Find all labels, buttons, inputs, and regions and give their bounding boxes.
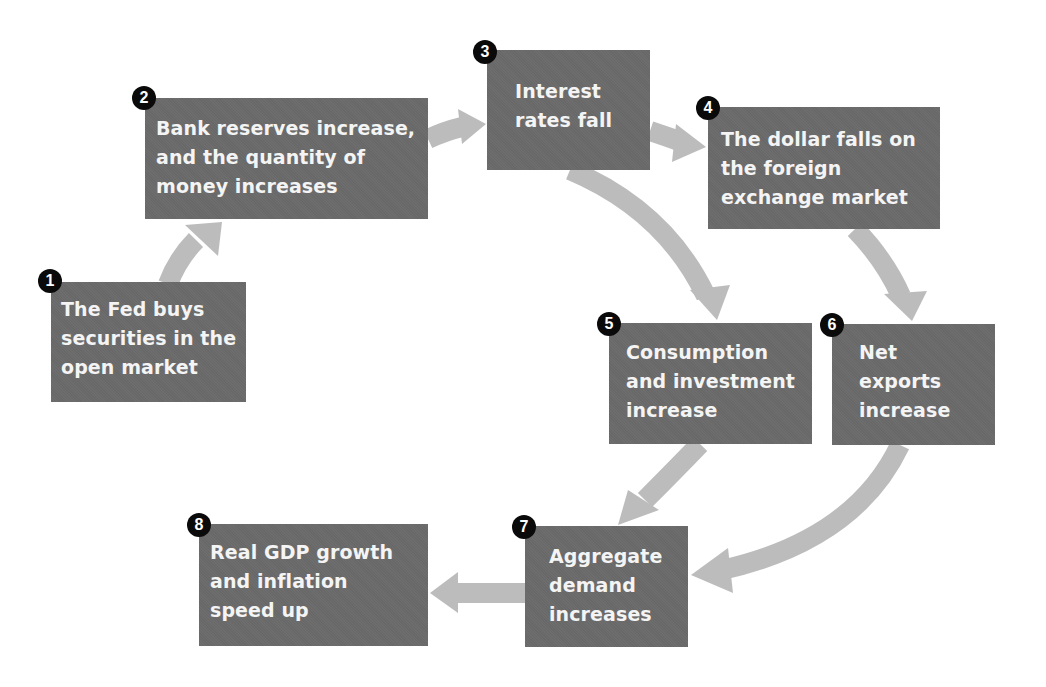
step-3-box: Interest rates fall <box>487 50 650 170</box>
step-6-box: Net exports increase <box>832 324 995 445</box>
arrow-1-to-2 <box>168 240 196 284</box>
step-4-text: The dollar falls on the foreign exchange… <box>721 125 916 212</box>
arrow-3-to-5 <box>570 170 706 296</box>
step-7-badge: 7 <box>512 515 536 539</box>
step-7-text: Aggregate demand increases <box>549 542 662 629</box>
step-8-badge: 8 <box>187 513 211 537</box>
arrowhead-4 <box>672 124 706 162</box>
step-2-box: Bank reserves increase, and the quantity… <box>145 98 428 219</box>
arrowhead-3 <box>458 109 486 144</box>
step-1-badge: 1 <box>38 269 62 293</box>
step-6-text: Net exports increase <box>859 338 950 425</box>
step-5-box: Consumption and investment increase <box>609 323 812 444</box>
step-8-text: Real GDP growth and inflation speed up <box>210 538 393 625</box>
arrowhead-8 <box>430 572 458 613</box>
arrow-2-to-3 <box>428 127 462 139</box>
step-5-badge: 5 <box>597 312 621 336</box>
arrow-6-to-7 <box>722 445 900 570</box>
monetary-policy-transmission-diagram: The Fed buys securities in the open mark… <box>0 0 1046 687</box>
arrowhead-7b <box>691 548 733 593</box>
step-4-badge: 4 <box>696 96 720 120</box>
step-8-box: Real GDP growth and inflation speed up <box>199 524 428 646</box>
step-2-text: Bank reserves increase, and the quantity… <box>156 114 415 201</box>
step-1-box: The Fed buys securities in the open mark… <box>51 282 246 402</box>
step-3-text: Interest rates fall <box>515 77 612 135</box>
step-7-box: Aggregate demand increases <box>525 526 688 647</box>
step-1-text: The Fed buys securities in the open mark… <box>61 295 236 382</box>
step-6-badge: 6 <box>820 313 844 337</box>
step-3-badge: 3 <box>473 40 497 64</box>
arrow-4-to-6 <box>855 229 901 296</box>
arrowhead-5 <box>690 285 730 320</box>
arrow-5-to-7 <box>645 444 700 500</box>
step-4-box: The dollar falls on the foreign exchange… <box>708 107 940 229</box>
arrowhead-6 <box>884 291 927 321</box>
step-2-badge: 2 <box>132 86 156 110</box>
step-5-text: Consumption and investment increase <box>626 338 795 425</box>
